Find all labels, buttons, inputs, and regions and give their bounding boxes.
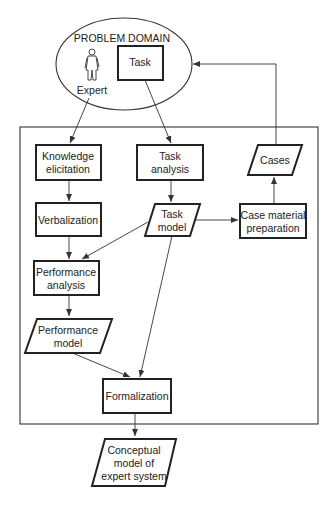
node-task-model: Task model	[145, 204, 200, 236]
node-label: elicitation	[46, 163, 90, 175]
problem-domain: PROBLEM DOMAIN Expert Task	[56, 18, 192, 110]
flow-diagram: PROBLEM DOMAIN Expert Task Knowledge eli…	[0, 0, 333, 505]
node-verbalization: Verbalization	[36, 203, 101, 236]
node-label: model	[158, 221, 187, 233]
task-label: Task	[129, 56, 151, 68]
node-cases: Cases	[248, 145, 302, 175]
node-label: expert system	[101, 470, 167, 482]
node-conceptual-model: Conceptual model of expert system	[92, 439, 176, 486]
node-label: Knowledge	[42, 150, 94, 162]
node-performance-analysis: Performance analysis	[34, 261, 99, 295]
node-label: analysis	[47, 279, 85, 291]
node-label: Verbalization	[38, 214, 98, 226]
node-label: Task	[159, 150, 181, 162]
node-performance-model: Performance model	[25, 319, 112, 353]
edge-cases-to-problem-domain	[193, 64, 276, 145]
node-label: model of	[114, 457, 154, 469]
edge-performance-model-to-formalization	[70, 352, 130, 377]
node-formalization: Formalization	[103, 379, 171, 413]
node-label: Formalization	[105, 390, 168, 402]
node-label: Task	[161, 208, 183, 220]
node-knowledge-elicitation: Knowledge elicitation	[36, 145, 101, 180]
node-label: Cases	[260, 154, 290, 166]
node-case-material-preparation: Case material preparation	[240, 204, 306, 238]
expert-label: Expert	[77, 84, 107, 96]
edge-task-model-to-formalization	[140, 236, 172, 377]
node-label: model	[54, 337, 83, 349]
node-task-analysis: Task analysis	[137, 145, 203, 180]
node-label: Performance	[36, 266, 96, 278]
node-label: analysis	[151, 163, 189, 175]
node-label: Case material	[241, 209, 306, 221]
edge-expert-to-knowledge-elicitation	[70, 98, 89, 143]
problem-domain-title: PROBLEM DOMAIN	[74, 32, 170, 44]
node-label: preparation	[246, 222, 299, 234]
node-label: Performance	[38, 324, 98, 336]
edges	[69, 64, 276, 436]
node-label: Conceptual	[107, 444, 160, 456]
